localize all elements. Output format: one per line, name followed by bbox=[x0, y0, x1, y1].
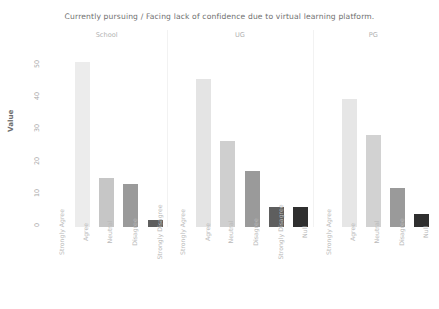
x-label-slot: Neutral bbox=[361, 230, 385, 309]
y-tick-label: 30 bbox=[26, 123, 48, 133]
bar-group bbox=[46, 46, 167, 227]
bar-slot[interactable] bbox=[216, 46, 240, 227]
x-label-slot: Strongly Agree bbox=[167, 230, 191, 309]
bar-slot[interactable] bbox=[143, 46, 167, 227]
x-label-slot: Disagree bbox=[119, 230, 143, 309]
bar[interactable] bbox=[75, 62, 90, 227]
x-axis-tick-labels: Strongly AgreeAgreeNeutralDisagreeStrong… bbox=[167, 230, 313, 309]
bar[interactable] bbox=[342, 99, 357, 227]
bar-group bbox=[313, 46, 434, 227]
bar-slot[interactable] bbox=[289, 46, 313, 227]
facet-label: PG bbox=[313, 31, 434, 39]
bar-slot[interactable] bbox=[70, 46, 94, 227]
bar-slot[interactable] bbox=[313, 46, 337, 227]
x-label-slot: Disagree bbox=[240, 230, 264, 309]
bar-group bbox=[167, 46, 313, 227]
x-label-slot: Strongly Agree bbox=[46, 230, 70, 309]
bar[interactable] bbox=[196, 79, 211, 227]
x-label-slot: Null bbox=[410, 230, 434, 309]
x-label-slot: Null bbox=[289, 230, 313, 309]
x-label-slot: Agree bbox=[70, 230, 94, 309]
bar-slot[interactable] bbox=[192, 46, 216, 227]
y-tick-label: 20 bbox=[26, 156, 48, 166]
x-axis-tick-labels: Strongly AgreeAgreeNeutralDisagreeNull bbox=[313, 230, 434, 309]
bar-slot[interactable] bbox=[361, 46, 385, 227]
x-label-slot: Neutral bbox=[216, 230, 240, 309]
facet-ug: UGStrongly AgreeAgreeNeutralDisagreeStro… bbox=[167, 46, 313, 227]
facet-pg: PGStrongly AgreeAgreeNeutralDisagreeNull bbox=[313, 46, 434, 227]
facet-school: SchoolStrongly AgreeAgreeNeutralDisagree… bbox=[46, 46, 167, 227]
x-label-slot: Neutral bbox=[95, 230, 119, 309]
x-label-slot: Strongly Agree bbox=[313, 230, 337, 309]
bar-slot[interactable] bbox=[119, 46, 143, 227]
x-label-slot: Strongly Disagree bbox=[143, 230, 167, 309]
y-tick-label: 40 bbox=[26, 91, 48, 101]
x-label-slot: Agree bbox=[192, 230, 216, 309]
bar-slot[interactable] bbox=[410, 46, 434, 227]
bar-slot[interactable] bbox=[264, 46, 288, 227]
x-tick-label: Null bbox=[422, 226, 439, 238]
x-label-slot: Strongly Disagree bbox=[264, 230, 288, 309]
bar-slot[interactable] bbox=[337, 46, 361, 227]
x-label-slot: Agree bbox=[337, 230, 361, 309]
bar-slot[interactable] bbox=[95, 46, 119, 227]
x-axis-tick-labels: Strongly AgreeAgreeNeutralDisagreeStrong… bbox=[46, 230, 167, 309]
chart-title: Currently pursuing / Facing lack of conf… bbox=[0, 12, 439, 21]
plot-area: SchoolStrongly AgreeAgreeNeutralDisagree… bbox=[46, 46, 434, 227]
facet-label: UG bbox=[167, 31, 313, 39]
bar-slot[interactable] bbox=[240, 46, 264, 227]
x-label-slot: Disagree bbox=[386, 230, 410, 309]
y-tick-label: 0 bbox=[26, 220, 48, 230]
bar-chart: Currently pursuing / Facing lack of conf… bbox=[0, 0, 439, 309]
bar-slot[interactable] bbox=[46, 46, 70, 227]
y-tick-label: 50 bbox=[26, 59, 48, 69]
bar-slot[interactable] bbox=[386, 46, 410, 227]
y-tick-label: 10 bbox=[26, 188, 48, 198]
facet-label: School bbox=[46, 31, 167, 39]
y-axis-ticks: 50403020100 bbox=[26, 55, 48, 235]
y-axis-label: Value bbox=[6, 110, 15, 132]
bar-slot[interactable] bbox=[167, 46, 191, 227]
